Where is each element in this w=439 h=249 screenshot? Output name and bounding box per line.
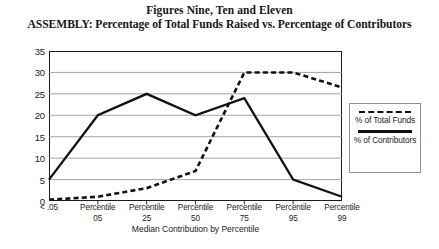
series-line-of-contributors [49, 94, 342, 197]
x-tick-label: < .05 [40, 203, 58, 214]
y-tick-label: 15 [0, 131, 45, 142]
y-tick-label: 35 [0, 46, 45, 57]
x-tick-label: Percentile75 [227, 203, 262, 224]
x-tick-label: Percentile99 [324, 203, 359, 224]
x-tick-label: Percentile95 [275, 203, 310, 224]
x-tick-label: Percentile05 [80, 203, 115, 224]
series-layer [49, 51, 342, 201]
x-tick-label: Percentile50 [178, 203, 213, 224]
legend-entry-contributors: % of Contributors [350, 130, 420, 145]
y-tick-label: 20 [0, 110, 45, 121]
legend-swatch-dashed-icon [359, 111, 411, 113]
y-tick-label: 10 [0, 153, 45, 164]
legend-label-total-funds: % of Total Funds [350, 115, 420, 125]
x-axis-title: Median Contribution by Percentile [49, 224, 342, 234]
y-axis-tick-labels: 05101520253035 [0, 51, 45, 201]
legend-entry-total-funds: % of Total Funds [350, 111, 420, 125]
y-tick-label: 5 [0, 174, 45, 185]
x-tick-label: Percentile25 [129, 203, 164, 224]
figure-title: Figures Nine, Ten and Eleven [0, 3, 439, 17]
legend-swatch-solid-icon [358, 130, 412, 133]
title-block: Figures Nine, Ten and Eleven ASSEMBLY: P… [0, 3, 439, 32]
legend-label-contributors: % of Contributors [350, 135, 420, 145]
y-tick-label: 30 [0, 67, 45, 78]
figure-subtitle: ASSEMBLY: Percentage of Total Funds Rais… [0, 17, 439, 32]
chart-legend: % of Total Funds % of Contributors [349, 103, 421, 173]
figure-container: Figures Nine, Ten and Eleven ASSEMBLY: P… [0, 0, 439, 249]
y-tick-label: 0 [0, 196, 45, 207]
y-tick-label: 25 [0, 88, 45, 99]
